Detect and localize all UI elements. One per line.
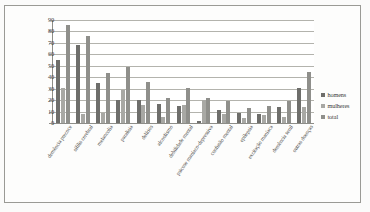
chart-legend: homensmulherestotal	[321, 89, 370, 122]
x-axis-label: sífilis cerebral	[71, 124, 93, 152]
x-axis-label: psicose maníaco-depressiva	[175, 124, 214, 176]
bar-group	[93, 20, 113, 123]
x-axis-label: epilepsia	[238, 124, 254, 143]
legend-swatch-icon	[321, 93, 325, 97]
bar-total	[267, 106, 271, 123]
legend-label: mulheres	[328, 102, 350, 109]
x-axis-label: paralisia	[118, 124, 133, 142]
bar-mulheres	[242, 118, 246, 123]
bar-homens	[116, 100, 120, 123]
legend-item-mulheres: mulheres	[321, 100, 370, 111]
bar-group	[73, 20, 93, 123]
bar-mulheres	[282, 117, 286, 123]
bar-group	[294, 20, 314, 123]
bar-group	[133, 20, 153, 123]
y-tick-mark	[49, 89, 52, 90]
legend-label: homens	[328, 91, 347, 98]
bar-group	[113, 20, 133, 123]
y-tick-mark	[49, 20, 52, 21]
bar-total	[106, 73, 110, 123]
bar-mulheres	[121, 90, 125, 123]
bar-homens	[177, 106, 181, 123]
x-axis-label: alcoolismo	[155, 124, 173, 147]
bar-group	[53, 20, 73, 123]
bar-mulheres	[81, 114, 85, 123]
legend-item-homens: homens	[321, 89, 370, 100]
x-axis-label: delírios	[140, 124, 154, 141]
bar-groups	[53, 20, 314, 123]
legend-swatch-icon	[321, 104, 325, 108]
bar-group	[274, 20, 294, 123]
y-tick-mark	[49, 66, 52, 67]
bar-mulheres	[141, 105, 145, 123]
x-axis-label: outras doenças	[291, 124, 314, 153]
bar-total	[287, 101, 291, 123]
bar-group	[173, 20, 193, 123]
x-axis-label: demência precoce	[46, 124, 73, 159]
bar-total	[226, 101, 230, 123]
bar-homens	[56, 60, 60, 123]
bar-homens	[257, 114, 261, 123]
bar-homens	[197, 121, 201, 123]
y-tick-mark	[49, 31, 52, 32]
bar-mulheres	[182, 105, 186, 123]
bar-homens	[237, 113, 241, 123]
bar-mulheres	[262, 115, 266, 123]
chart-plot-area	[52, 20, 314, 124]
bar-group	[194, 20, 214, 123]
bar-total	[206, 98, 210, 123]
bar-total	[66, 25, 70, 123]
bar-homens	[297, 88, 301, 123]
bar-mulheres	[222, 114, 226, 123]
bar-homens	[157, 104, 161, 123]
bar-total	[126, 67, 130, 123]
bar-group	[254, 20, 274, 123]
y-tick-mark	[49, 77, 52, 78]
y-tick-mark	[49, 43, 52, 44]
bar-total	[247, 108, 251, 123]
bar-mulheres	[161, 117, 165, 123]
bar-mulheres	[61, 88, 65, 123]
bar-homens	[277, 107, 281, 123]
y-tick-mark	[49, 54, 52, 55]
bar-group	[153, 20, 173, 123]
bar-total	[307, 72, 311, 124]
bar-total	[146, 82, 150, 123]
bar-homens	[137, 100, 141, 123]
x-axis-label: melancolia	[95, 124, 113, 147]
bar-group	[214, 20, 234, 123]
screenshot-frame: 9080706050403020100 demência precocesífi…	[0, 0, 370, 212]
bar-mulheres	[202, 100, 206, 123]
bar-mulheres	[302, 107, 306, 123]
chart-outer-border: 9080706050403020100 demência precocesífi…	[4, 5, 361, 203]
bar-total	[186, 88, 190, 123]
bar-total	[166, 98, 170, 123]
bar-homens	[217, 110, 221, 123]
bar-homens	[76, 45, 80, 123]
bar-homens	[96, 83, 100, 123]
legend-swatch-icon	[321, 115, 325, 119]
bar-total	[86, 36, 90, 123]
y-tick-mark	[49, 112, 52, 113]
bar-mulheres	[101, 113, 105, 123]
legend-label: total	[328, 113, 339, 120]
legend-item-total: total	[321, 111, 370, 122]
bar-group	[234, 20, 254, 123]
y-tick-mark	[49, 100, 52, 101]
x-axis-category-labels: demência precocesífilis cerebralmelancol…	[52, 124, 314, 212]
